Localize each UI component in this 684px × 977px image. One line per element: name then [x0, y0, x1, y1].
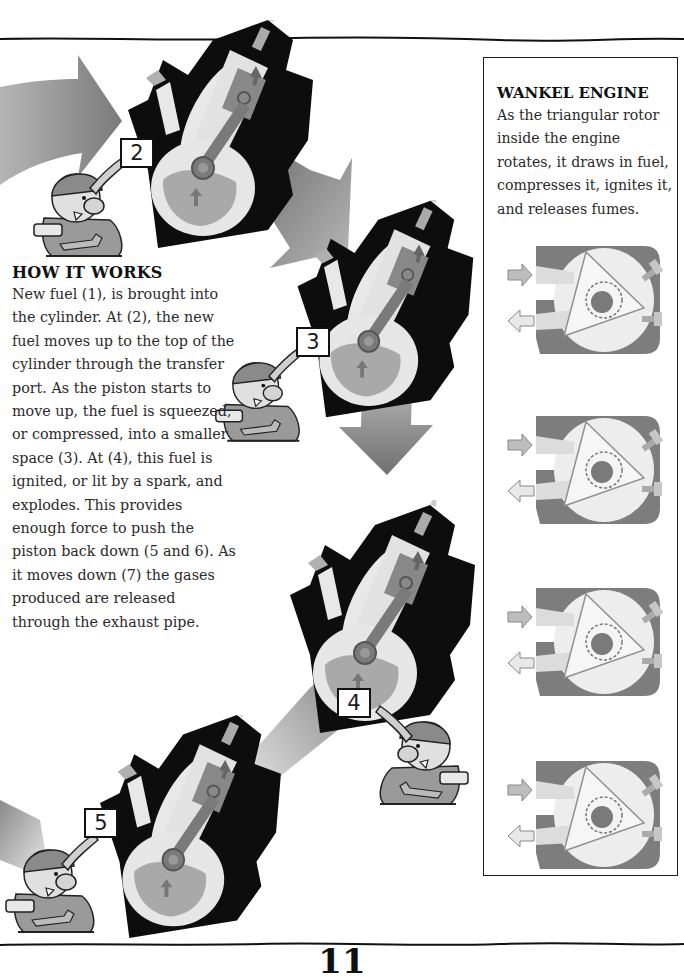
mechanic-figure-step-4 — [372, 688, 472, 808]
wankel-diagram-ignition — [504, 580, 664, 700]
engine-illustration-step-3 — [288, 200, 478, 420]
wankel-diagram-exhaust — [504, 753, 664, 873]
step-number: 4 — [347, 691, 360, 715]
wankel-diagram-intake — [504, 238, 664, 358]
how-it-works-section: HOW IT WORKS New fuel (1), is brought in… — [12, 263, 237, 634]
engine-illustration-step-5 — [88, 715, 288, 940]
wankel-engine-heading: WANKEL ENGINE — [497, 84, 649, 102]
page-number: 11 — [0, 944, 684, 977]
wankel-engine-sidebar: WANKEL ENGINE As the triangular rotor in… — [483, 57, 678, 876]
how-it-works-heading: HOW IT WORKS — [12, 263, 237, 282]
wankel-engine-body: As the triangular rotor inside the engin… — [497, 104, 677, 221]
step-label-3: 3 — [296, 327, 330, 357]
step-label-5: 5 — [84, 808, 118, 838]
step-number: 5 — [94, 811, 107, 835]
step-number: 3 — [306, 330, 319, 354]
wankel-diagram-compression — [504, 408, 664, 528]
step-label-2: 2 — [120, 138, 154, 168]
how-it-works-body: New fuel (1), is brought into the cylind… — [12, 283, 237, 634]
step-number: 2 — [130, 141, 143, 165]
top-divider-rule — [0, 34, 684, 37]
step-label-4: 4 — [337, 688, 371, 718]
mechanic-figure-step-2 — [30, 140, 130, 260]
